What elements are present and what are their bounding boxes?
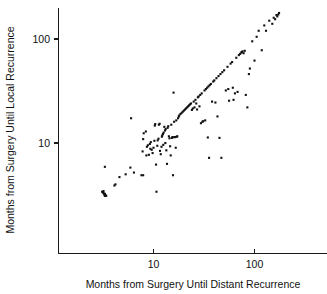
data-point: [194, 99, 196, 101]
data-point: [231, 61, 233, 63]
data-point: [170, 154, 172, 156]
x-axis-ticks: 10100: [148, 249, 264, 270]
data-point: [176, 135, 178, 137]
data-point: [172, 136, 174, 138]
data-point: [211, 101, 213, 103]
data-point: [149, 143, 151, 145]
data-point: [159, 150, 161, 152]
data-point: [228, 100, 230, 102]
data-point: [173, 121, 175, 123]
data-point: [104, 195, 106, 197]
data-point: [130, 117, 132, 119]
data-point: [220, 157, 222, 159]
data-point: [235, 57, 237, 59]
data-point: [125, 173, 127, 175]
data-point: [163, 132, 165, 134]
data-point: [167, 125, 169, 127]
data-point: [155, 191, 157, 193]
data-point: [172, 174, 174, 176]
data-point: [160, 153, 162, 155]
data-point: [149, 148, 151, 150]
data-point: [225, 89, 227, 91]
data-point: [164, 142, 166, 144]
data-point: [168, 135, 170, 137]
data-point: [177, 117, 179, 119]
data-point: [268, 20, 270, 22]
data-point: [145, 154, 147, 156]
data-point: [156, 145, 158, 147]
data-point: [194, 106, 196, 108]
data-point: [271, 23, 273, 25]
data-point: [157, 138, 159, 140]
data-point: [165, 128, 167, 130]
data-point: [162, 144, 164, 146]
data-point: [168, 137, 170, 139]
plot-canvas: 10100 10100 Months from Surgery Until Di…: [0, 0, 327, 294]
data-point: [202, 120, 204, 122]
data-point: [243, 52, 245, 54]
y-tick-label: 10: [38, 137, 50, 149]
data-point: [217, 75, 219, 77]
data-point: [160, 146, 162, 148]
y-axis-ticks: 10100: [32, 33, 58, 149]
data-point: [265, 30, 267, 32]
data-point: [148, 154, 150, 156]
data-point: [256, 36, 258, 38]
data-point: [274, 18, 276, 20]
data-point: [232, 99, 234, 101]
data-point: [245, 94, 247, 96]
data-point: [196, 108, 198, 110]
data-point: [114, 183, 116, 185]
data-point: [251, 40, 253, 42]
data-point: [226, 66, 228, 68]
data-point: [219, 73, 221, 75]
data-point: [152, 152, 154, 154]
data-point: [253, 60, 255, 62]
data-point: [278, 12, 280, 14]
data-point: [215, 77, 217, 79]
data-point: [102, 190, 104, 192]
data-point: [246, 106, 248, 108]
data-point: [213, 79, 215, 81]
data-point: [258, 30, 260, 32]
data-point: [207, 136, 209, 138]
data-point: [234, 92, 236, 94]
data-point: [227, 88, 229, 90]
data-point: [129, 167, 131, 169]
data-point: [154, 123, 156, 125]
data-point: [159, 123, 161, 125]
data-point: [145, 130, 147, 132]
data-point: [153, 140, 155, 142]
data-point: [241, 50, 243, 52]
x-axis-title: Months from Surgery Until Distant Recurr…: [86, 278, 301, 290]
data-point: [221, 71, 223, 73]
data-point: [170, 124, 172, 126]
x-tick-label: 100: [246, 258, 264, 270]
data-point: [152, 147, 154, 149]
data-point: [216, 115, 218, 117]
data-point: [166, 163, 168, 165]
data-point: [276, 15, 278, 17]
data-point: [210, 83, 212, 85]
data-point: [165, 149, 167, 151]
data-point: [190, 102, 192, 104]
data-point: [263, 24, 265, 26]
data-point: [143, 132, 145, 134]
data-point: [249, 67, 251, 69]
data-point: [198, 105, 200, 107]
data-point: [150, 141, 152, 143]
data-point: [201, 92, 203, 94]
data-point: [118, 176, 120, 178]
data-point: [142, 138, 144, 140]
data-point: [142, 150, 144, 152]
data-point: [142, 174, 144, 176]
data-point: [155, 164, 157, 166]
data-point: [195, 102, 197, 104]
data-point: [208, 157, 210, 159]
data-point: [244, 50, 246, 52]
data-point: [173, 92, 175, 94]
data-point: [232, 87, 234, 89]
data-point: [175, 119, 177, 121]
data-point: [163, 126, 165, 128]
scatter-plot-figure: 10100 10100 Months from Surgery Until Di…: [0, 0, 327, 294]
